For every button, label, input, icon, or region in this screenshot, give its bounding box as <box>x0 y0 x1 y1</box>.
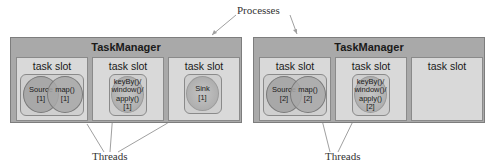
task-slot: task slot Sink [1] <box>168 57 240 121</box>
processes-label: Processes <box>237 4 280 16</box>
taskmanager-1: TaskManager task slot Source [1] map() [… <box>10 37 242 123</box>
task-slot-title: task slot <box>412 60 482 72</box>
task-slot-title: task slot <box>93 60 163 72</box>
operator-keyby-window-apply: keyBy()/ window()/ apply() [1] <box>111 76 144 113</box>
taskmanager-2: TaskManager task slot Source [2] map() [… <box>253 37 485 123</box>
operator-map: map() [1] <box>47 76 83 113</box>
taskmanager-title: TaskManager <box>254 41 484 53</box>
thread-box: keyBy()/ window()/ apply() [2] <box>352 74 390 116</box>
task-slot-title: task slot <box>17 60 87 72</box>
task-slot: task slot Source [1] map() [1] <box>16 57 88 121</box>
threads-label-right: Threads <box>325 150 360 162</box>
threads-label-left: Threads <box>92 150 127 162</box>
task-slot: task slot keyBy()/ window()/ apply() [1] <box>92 57 164 121</box>
task-slot-title: task slot <box>169 60 239 72</box>
thread-box: Source [1] map() [1] <box>20 74 84 116</box>
thread-box: Source [2] map() [2] <box>263 74 327 116</box>
task-slot-empty: task slot <box>411 57 483 121</box>
operator-sink: Sink [1] <box>186 76 219 111</box>
operator-keyby-window-apply: keyBy()/ window()/ apply() [2] <box>354 76 387 113</box>
thread-box: keyBy()/ window()/ apply() [1] <box>109 74 147 116</box>
task-slot: task slot keyBy()/ window()/ apply() [2] <box>335 57 407 121</box>
thread-box: Sink [1] <box>184 74 222 114</box>
task-slot-title: task slot <box>260 60 330 72</box>
taskmanager-title: TaskManager <box>11 41 241 53</box>
task-slot: task slot Source [2] map() [2] <box>259 57 331 121</box>
operator-map: map() [2] <box>290 76 326 113</box>
task-slot-title: task slot <box>336 60 406 72</box>
